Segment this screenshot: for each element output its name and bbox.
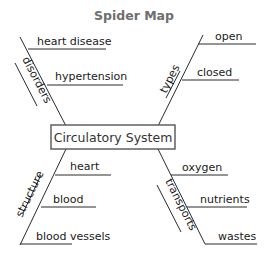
detail-wastes: wastes: [218, 230, 257, 243]
detail-open: open: [215, 30, 242, 43]
category-types: types: [157, 62, 182, 95]
detail-oxygen: oxygen: [182, 161, 222, 174]
category-structure: structure: [13, 169, 47, 220]
center-topic: Circulatory System: [54, 130, 173, 145]
category-transports: transports: [162, 176, 199, 233]
detail-blood-vessels: blood vessels: [36, 230, 111, 243]
spider-map-diagram: Spider Map heart disease hypertension di…: [0, 0, 267, 256]
detail-blood: blood: [53, 193, 83, 206]
detail-heart: heart: [70, 160, 100, 173]
diagram-title: Spider Map: [94, 8, 174, 23]
detail-hypertension: hypertension: [55, 70, 127, 83]
detail-nutrients: nutrients: [200, 193, 250, 206]
category-disorders: disorders: [19, 54, 54, 105]
detail-heart-disease: heart disease: [37, 35, 112, 48]
detail-closed: closed: [197, 66, 232, 79]
